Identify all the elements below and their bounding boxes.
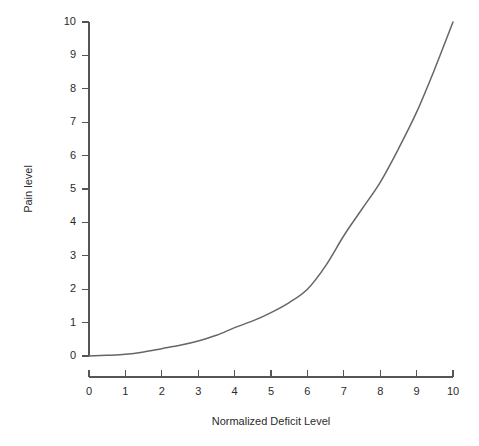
x-axis-ticks — [89, 370, 453, 377]
y-tick-label-9: 9 — [70, 48, 76, 60]
x-tick-label-9: 9 — [414, 385, 420, 397]
y-axis-title: Pain level — [22, 165, 34, 213]
y-tick-label-5: 5 — [70, 182, 76, 194]
x-tick-label-0: 0 — [86, 385, 92, 397]
line-chart-canvas: 10 9 8 7 6 5 4 3 2 1 0 0 — [0, 0, 479, 446]
data-series-pain-level — [89, 22, 453, 356]
x-tick-label-3: 3 — [195, 385, 201, 397]
y-axis-tick-labels: 10 9 8 7 6 5 4 3 2 1 0 — [64, 15, 76, 361]
x-tick-label-6: 6 — [304, 385, 310, 397]
y-axis-ticks — [82, 22, 89, 356]
y-tick-label-8: 8 — [70, 82, 76, 94]
y-tick-label-1: 1 — [70, 316, 76, 328]
x-axis-title: Normalized Deficit Level — [212, 415, 331, 427]
y-tick-label-0: 0 — [70, 349, 76, 361]
x-axis-tick-labels: 0 1 2 3 4 5 6 7 8 9 10 — [86, 385, 459, 397]
y-tick-label-7: 7 — [70, 115, 76, 127]
y-tick-label-3: 3 — [70, 249, 76, 261]
x-tick-label-2: 2 — [159, 385, 165, 397]
x-tick-label-10: 10 — [447, 385, 459, 397]
x-tick-label-5: 5 — [268, 385, 274, 397]
y-tick-label-6: 6 — [70, 149, 76, 161]
x-tick-label-4: 4 — [232, 385, 238, 397]
y-tick-label-10: 10 — [64, 15, 76, 27]
x-tick-label-8: 8 — [377, 385, 383, 397]
y-tick-label-2: 2 — [70, 282, 76, 294]
y-tick-label-4: 4 — [70, 215, 76, 227]
chart-container: 10 9 8 7 6 5 4 3 2 1 0 0 — [0, 0, 479, 446]
x-tick-label-1: 1 — [122, 385, 128, 397]
x-tick-label-7: 7 — [341, 385, 347, 397]
